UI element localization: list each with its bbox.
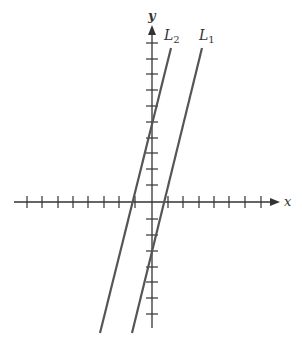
y-axis-arrow-icon — [148, 25, 156, 35]
line-l2 — [100, 48, 171, 333]
x-axis-label: x — [284, 194, 292, 209]
line-l2-label: L2 — [163, 27, 180, 45]
y-axis-label: y — [147, 8, 157, 23]
line-l1-label: L1 — [198, 27, 215, 45]
y-axis: y — [146, 8, 158, 328]
x-axis: x — [14, 194, 292, 209]
x-axis-arrow-icon — [270, 198, 280, 206]
line-l1 — [132, 48, 202, 333]
coordinate-diagram: x y L2 L1 — [0, 0, 302, 354]
